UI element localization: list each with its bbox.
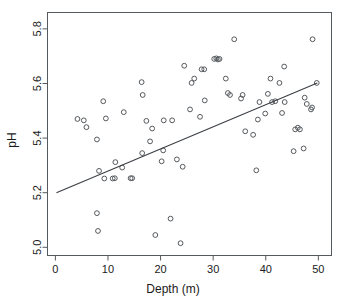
- x-tick-label: 20: [154, 263, 166, 275]
- x-tick-label: 50: [312, 263, 324, 275]
- scatter-plot-figure: 01020304050 5.05.25.45.65.8 Depth (m) pH: [0, 0, 346, 301]
- x-tick-label: 10: [102, 263, 114, 275]
- y-tick-label: 5.2: [32, 185, 44, 200]
- y-tick-label: 5.4: [32, 130, 44, 145]
- x-tick-label: 30: [207, 263, 219, 275]
- y-axis-title: pH: [5, 132, 19, 147]
- x-tick-label: 0: [52, 263, 58, 275]
- chart-canvas: 01020304050 5.05.25.45.65.8 Depth (m) pH: [0, 0, 346, 301]
- x-axis-title: Depth (m): [146, 282, 199, 296]
- x-tick-label: 40: [260, 263, 272, 275]
- y-tick-label: 5.0: [32, 240, 44, 255]
- y-tick-label: 5.6: [32, 76, 44, 91]
- y-tick-label: 5.8: [32, 21, 44, 36]
